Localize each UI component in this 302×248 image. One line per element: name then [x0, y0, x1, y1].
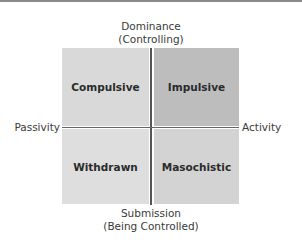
axis-bottom-line2: (Being Controlled) [86, 220, 216, 233]
quadrant-compulsive: Compulsive [62, 48, 149, 126]
quadrant-label: Compulsive [71, 81, 139, 93]
axis-bottom-line1: Submission [86, 207, 216, 220]
horizontal-axis-line [62, 127, 239, 128]
quadrant-label: Impulsive [168, 81, 225, 93]
quadrant-masochistic: Masochistic [154, 129, 239, 204]
axis-label-right: Activity [242, 121, 300, 134]
axis-label-top: Dominance (Controlling) [101, 20, 201, 46]
quadrant-impulsive: Impulsive [154, 48, 239, 126]
quadrant-label: Masochistic [162, 161, 231, 173]
axis-label-left: Passivity [2, 121, 60, 134]
axis-top-line2: (Controlling) [101, 33, 201, 46]
axis-top-line1: Dominance [101, 20, 201, 33]
top-border [0, 0, 302, 2]
quadrant-label: Withdrawn [73, 161, 138, 173]
axis-label-bottom: Submission (Being Controlled) [86, 207, 216, 233]
quadrant-withdrawn: Withdrawn [62, 129, 149, 204]
